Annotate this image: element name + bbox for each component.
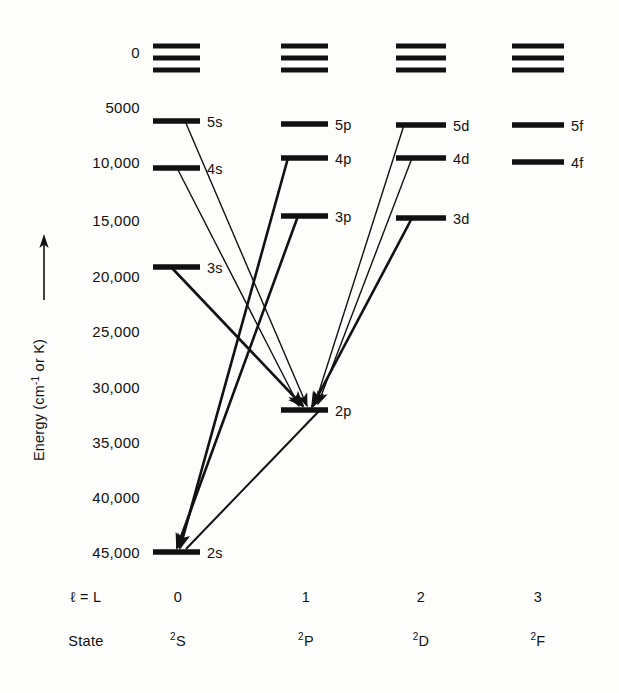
level-label-5s: 5s <box>207 114 223 130</box>
y-tick-label-20000: 20,000 <box>92 268 140 285</box>
level-label-3s: 3s <box>207 260 223 276</box>
y-tick-label-45000: 45,000 <box>92 544 140 561</box>
y-tick-label-15000: 15,000 <box>92 212 140 229</box>
level-label-2s: 2s <box>207 545 223 561</box>
footer-term-symbol-f: 2F <box>530 631 545 649</box>
level-label-2p: 2p <box>335 403 352 419</box>
level-label-4s: 4s <box>207 161 223 177</box>
transitions-group <box>171 121 412 549</box>
y-axis-title: Energy (cm-1 or K) <box>30 339 47 461</box>
transition-3d-2p <box>312 218 412 407</box>
transition-4s-2p <box>177 168 299 406</box>
footer-term-symbol-d: 2D <box>413 631 430 649</box>
transition-2p-2s <box>186 410 320 549</box>
level-label-5d: 5d <box>453 118 470 134</box>
level-label-5f: 5f <box>571 118 584 134</box>
y-tick-label-35000: 35,000 <box>92 434 140 451</box>
level-label-4d: 4d <box>453 151 470 167</box>
continuum-group <box>153 46 564 70</box>
footer-l-value-p: 1 <box>302 589 310 605</box>
transition-5s-2p <box>185 121 307 406</box>
footer-l-value-f: 3 <box>534 589 542 605</box>
levels-group <box>153 121 564 552</box>
y-axis-group: Energy (cm-1 or K) <box>30 234 49 461</box>
energy-level-diagram: 5s4s3s2s5p4p3p2p5d4d3d5f4f 0500010,00015… <box>0 0 619 693</box>
level-label-5p: 5p <box>335 117 352 133</box>
y-tick-label-25000: 25,000 <box>92 323 140 340</box>
y-tick-label-10000: 10,000 <box>92 154 140 171</box>
footer-l-value-s: 0 <box>174 589 182 605</box>
footer-group: ℓ = L0123State2S2P2D2F <box>68 589 545 649</box>
footer-term-symbol-p: 2P <box>298 631 314 649</box>
y-tick-label-0: 0 <box>131 44 140 61</box>
footer-term-symbol-s: 2S <box>170 631 186 649</box>
level-label-3p: 3p <box>335 209 352 225</box>
footer-l-value-d: 2 <box>417 589 425 605</box>
level-label-4f: 4f <box>571 155 584 171</box>
transition-5d-2p <box>315 125 404 404</box>
footer-row-label-state: State <box>68 633 103 649</box>
level-label-3d: 3d <box>453 211 470 227</box>
footer-row-label-l-equals-L: ℓ = L <box>71 589 102 605</box>
y-tick-label-40000: 40,000 <box>92 489 140 506</box>
level-label-4p: 4p <box>335 151 352 167</box>
y-tick-label-5000: 5000 <box>105 99 140 116</box>
axis-tick-labels-group: 0500010,00015,00020,00025,00030,00035,00… <box>92 44 140 561</box>
y-tick-label-30000: 30,000 <box>92 379 140 396</box>
diagram-canvas: 5s4s3s2s5p4p3p2p5d4d3d5f4f 0500010,00015… <box>0 0 619 693</box>
